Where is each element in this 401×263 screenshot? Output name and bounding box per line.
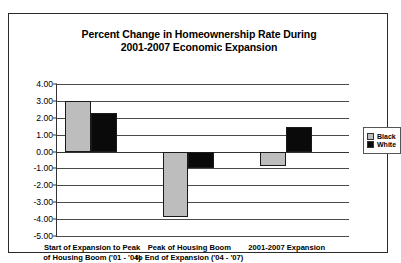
y-axis-tick-mark [53,185,57,186]
bar-black-1[interactable] [163,152,189,217]
legend-item-black[interactable]: Black [367,133,396,140]
legend-item-white[interactable]: White [367,141,396,148]
chart-title-line-1: Percent Change in Homeownership Rate Dur… [39,28,359,41]
bar-black-2[interactable] [260,152,286,166]
gridline [57,84,349,85]
y-axis-tick-label: -1.00 [19,163,53,173]
x-axis-label-line: of Housing Boom ('01 - '04) [43,253,141,263]
gridline [57,185,349,186]
chart-frame: Percent Change in Homeownership Rate Dur… [8,13,388,253]
legend-label-black: Black [377,133,396,140]
x-axis-category-label: Start of Expansion to Peakof Housing Boo… [43,243,141,263]
y-axis-tick-label: 1.00 [19,130,53,140]
y-axis-tick-label: 4.00 [19,79,53,89]
bar-black-0[interactable] [65,101,91,152]
gridline [57,219,349,220]
y-axis-tick-label: -5.00 [19,231,53,241]
bar-white-2[interactable] [286,127,312,151]
legend-label-white: White [377,141,396,148]
plot-area: 4.003.002.001.000.00-1.00-2.00-3.00-4.00… [56,84,349,237]
y-axis-tick-mark [53,134,57,135]
x-axis-label-line: to End of Expansion ('04 - '07) [135,253,243,263]
y-axis-tick-label: 3.00 [19,96,53,106]
y-axis-tick-mark [53,202,57,203]
bar-white-1[interactable] [188,152,214,168]
legend-swatch-white-icon [367,141,374,148]
y-axis-tick-mark [53,151,57,152]
gridline [57,101,349,102]
chart-title-line-2: 2001-2007 Economic Expansion [39,41,359,54]
y-axis-tick-mark [53,117,57,118]
x-axis-label-line: Start of Expansion to Peak [43,243,141,253]
x-axis-label-line: Peak of Housing Boom [135,243,243,253]
gridline [57,236,349,237]
chart-legend: Black White [363,127,401,154]
legend-swatch-black-icon [367,133,374,140]
x-axis-category-label: 2001-2007 Expansion [248,243,325,253]
y-axis-tick-mark [53,84,57,85]
gridline [57,202,349,203]
chart-title: Percent Change in Homeownership Rate Dur… [39,28,359,54]
y-axis-tick-label: -3.00 [19,197,53,207]
bar-white-0[interactable] [91,113,117,152]
gridline [57,168,349,169]
x-axis-label-line: 2001-2007 Expansion [248,243,325,253]
y-axis-tick-mark [53,168,57,169]
y-axis-tick-label: 2.00 [19,113,53,123]
y-axis-tick-mark [53,236,57,237]
y-axis-tick-mark [53,100,57,101]
x-axis-category-label: Peak of Housing Boomto End of Expansion … [135,243,243,263]
y-axis-tick-label: -4.00 [19,214,53,224]
y-axis-tick-label: 0.00 [19,147,53,157]
y-axis-tick-label: -2.00 [19,180,53,190]
y-axis-tick-mark [53,219,57,220]
